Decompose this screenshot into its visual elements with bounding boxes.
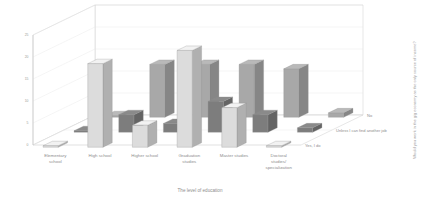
x-axis-category-label: Doctoral: [270, 153, 286, 158]
bar-5-2: [253, 110, 277, 132]
y-axis-tick-label: 15: [25, 77, 29, 81]
bar-2-3: [150, 60, 174, 117]
x-axis-title: The level of education: [178, 188, 223, 193]
z-axis-title: Would you work in the gig economy as the…: [412, 41, 417, 159]
bar-2-1: [88, 59, 112, 147]
chart-container: 0510152025ElementaryschoolHigh schoolHig…: [0, 0, 426, 202]
y-axis-tick-label: 20: [25, 55, 29, 59]
y-axis-tick-label: 5: [27, 121, 29, 125]
bar-5-3: [284, 64, 308, 117]
x-axis-category-label: studies: [182, 159, 197, 164]
x-axis-category-label: Higher school: [131, 153, 158, 158]
x-axis-category-label: Master studies: [220, 153, 249, 158]
x-axis-category-label: school: [49, 159, 62, 164]
x-axis-category-label: Elementary: [44, 153, 67, 158]
bar-chart-3d: 0510152025ElementaryschoolHigh schoolHig…: [0, 0, 426, 202]
x-axis-category-label: Graduation: [178, 153, 200, 158]
series-axis-label: Yes, I do: [305, 143, 321, 148]
y-axis-tick-label: 25: [25, 33, 29, 37]
bar-4-1: [177, 46, 201, 147]
x-axis-category-label: studies/: [271, 159, 287, 164]
series-axis-label: Unless I can find another job: [336, 128, 387, 133]
y-axis-tick-label: 10: [25, 99, 29, 103]
series-axis-label: No: [367, 113, 373, 118]
bar-3-1: [132, 121, 156, 148]
x-axis-category-label: specialization: [265, 165, 292, 170]
x-axis-category-label: High school: [89, 153, 112, 158]
y-axis-tick-label: 0: [27, 143, 29, 147]
bar-5-1: [222, 103, 246, 147]
